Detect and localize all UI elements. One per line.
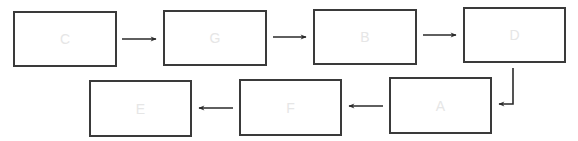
arrow-d-to-a [499, 68, 513, 104]
node-g: G [163, 10, 267, 66]
node-b: B [313, 9, 417, 65]
node-label: D [509, 27, 519, 43]
node-e: E [89, 80, 192, 137]
node-d: D [463, 7, 566, 63]
node-label: E [136, 101, 145, 117]
node-f: F [239, 79, 342, 136]
node-a: A [389, 77, 492, 134]
node-label: F [286, 100, 295, 116]
node-label: G [210, 30, 221, 46]
node-label: B [360, 29, 369, 45]
node-c: C [13, 11, 117, 67]
node-label: C [60, 31, 70, 47]
node-label: A [436, 98, 445, 114]
